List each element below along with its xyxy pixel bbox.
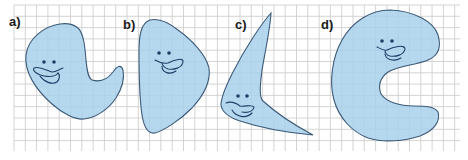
eye-icon bbox=[52, 60, 56, 64]
eye-icon bbox=[380, 39, 384, 43]
shape-d-outline bbox=[332, 10, 440, 141]
shape-b-outline bbox=[139, 19, 209, 133]
label-d: d) bbox=[321, 17, 333, 32]
eye-icon bbox=[167, 51, 171, 55]
shape-a-outline bbox=[26, 24, 124, 119]
label-a: a) bbox=[9, 14, 21, 29]
eye-icon bbox=[157, 51, 161, 55]
eye-icon bbox=[236, 94, 240, 98]
eye-icon bbox=[245, 94, 249, 98]
shape-d bbox=[332, 10, 440, 141]
eye-icon bbox=[42, 60, 46, 64]
shape-b bbox=[139, 19, 209, 133]
label-c: c) bbox=[235, 17, 247, 32]
eye-icon bbox=[390, 39, 394, 43]
figure-canvas: a) b) c) d) bbox=[0, 0, 468, 160]
shape-a bbox=[26, 24, 124, 119]
label-b: b) bbox=[123, 17, 135, 32]
